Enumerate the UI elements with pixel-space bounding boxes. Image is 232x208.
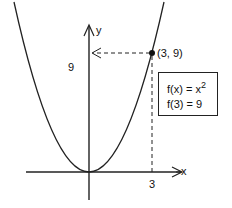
function-value: f(3) = 9 bbox=[167, 97, 217, 112]
function-definition-text: f(x) = x bbox=[167, 83, 201, 95]
exponent: 2 bbox=[201, 80, 206, 90]
y-axis-label: y bbox=[96, 24, 102, 36]
function-definition: f(x) = x2 bbox=[167, 78, 217, 97]
y-tick-label: 9 bbox=[68, 61, 74, 73]
x-tick-label: 3 bbox=[149, 178, 155, 190]
x-axis-label: x bbox=[181, 165, 187, 177]
point-label: (3, 9) bbox=[157, 47, 183, 59]
point-marker bbox=[149, 50, 155, 56]
function-box: f(x) = x2 f(3) = 9 bbox=[158, 72, 218, 116]
